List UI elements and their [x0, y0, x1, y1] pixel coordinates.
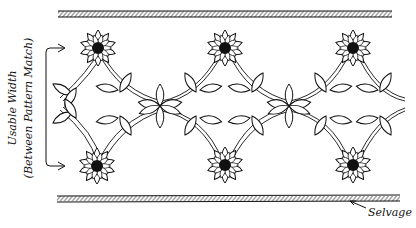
- selvage-pointer: [350, 201, 366, 208]
- fabric-pattern-diagram: Usable Width (Between Pattern Match) Sel…: [0, 0, 416, 228]
- flower-top-1: [80, 30, 116, 66]
- usable-width-bracket: [46, 44, 65, 170]
- flower-bottom-3: [335, 147, 371, 183]
- leaves: [51, 71, 394, 137]
- pattern-match-label: (Between Pattern Match): [22, 38, 35, 179]
- flower-bottom-2: [207, 147, 243, 183]
- selvage-bottom: [57, 195, 400, 202]
- flowers: [79, 30, 371, 184]
- flower-top-3: [335, 30, 371, 66]
- selvage-top: [58, 11, 392, 17]
- flower-top-2: [207, 30, 243, 66]
- usable-width-label: Usable Width: [6, 70, 19, 145]
- flower-bottom-1: [79, 148, 115, 184]
- selvage-label: Selvage: [368, 206, 412, 219]
- leaf-crossings: [138, 84, 312, 128]
